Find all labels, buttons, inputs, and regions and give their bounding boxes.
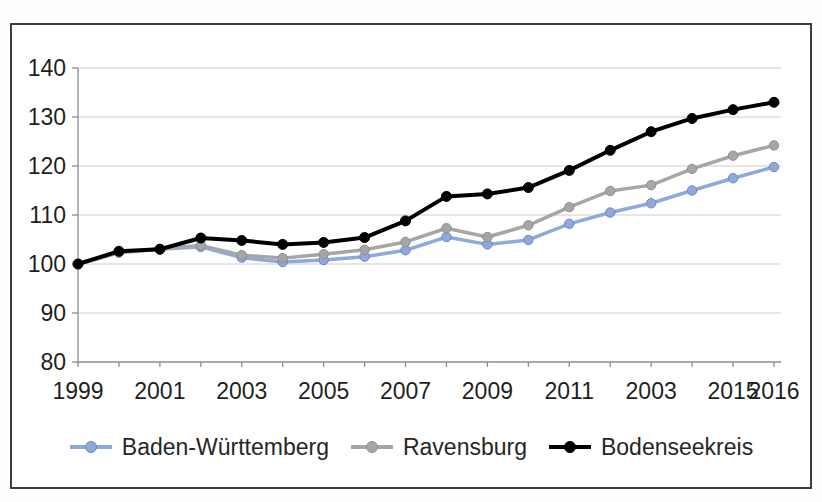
legend-line-marker-icon — [350, 440, 394, 454]
data-point-marker — [442, 232, 451, 241]
x-tick-label: 2007 — [380, 378, 431, 404]
data-point-marker — [319, 250, 328, 259]
x-tick-label: 2011 — [545, 378, 594, 404]
data-point-marker — [646, 127, 656, 137]
data-point-marker — [155, 244, 165, 254]
x-tick-label: 2016 — [748, 378, 799, 404]
y-tick-label: 90 — [40, 300, 66, 326]
data-point-marker — [646, 180, 655, 189]
y-tick-label: 120 — [28, 153, 66, 179]
y-tick-label: 130 — [28, 104, 66, 130]
legend-label-ravensburg: Ravensburg — [403, 436, 527, 459]
data-point-marker — [114, 246, 124, 256]
data-point-marker — [482, 189, 492, 199]
data-point-marker — [687, 164, 696, 173]
legend-item-ravensburg: Ravensburg — [350, 436, 527, 459]
data-point-marker — [278, 239, 288, 249]
x-tick-label: 2005 — [298, 378, 349, 404]
data-point-marker — [360, 245, 369, 254]
data-point-marker — [606, 186, 615, 195]
y-tick-label: 140 — [28, 55, 66, 81]
data-point-marker — [564, 165, 574, 175]
chart-legend: Baden-Württemberg Ravensburg Bodenseekre… — [0, 431, 822, 463]
legend-label-bodenseekreis: Bodenseekreis — [601, 436, 753, 459]
legend-label-baden-wuerttemberg: Baden-Württemberg — [122, 436, 329, 459]
data-point-marker — [401, 237, 410, 246]
data-point-marker — [606, 208, 615, 217]
data-point-marker — [687, 113, 697, 123]
data-point-marker — [523, 183, 533, 193]
data-point-marker — [728, 151, 737, 160]
data-point-marker — [483, 232, 492, 241]
data-point-marker — [401, 216, 411, 226]
data-point-marker — [442, 224, 451, 233]
data-point-marker — [360, 233, 370, 243]
x-tick-label: 2003 — [216, 378, 267, 404]
data-point-marker — [605, 145, 615, 155]
data-point-marker — [319, 237, 329, 247]
legend-item-baden-wuerttemberg: Baden-Württemberg — [69, 436, 329, 459]
chart-screenshot: 1401301201101009080199920012003200520072… — [0, 0, 822, 502]
data-point-marker — [524, 221, 533, 230]
data-point-marker — [73, 259, 83, 269]
legend-item-bodenseekreis: Bodenseekreis — [548, 436, 753, 459]
data-point-marker — [728, 105, 738, 115]
x-tick-label: 1999 — [52, 378, 103, 404]
data-point-marker — [565, 219, 574, 228]
data-point-marker — [769, 141, 778, 150]
data-point-marker — [237, 250, 246, 259]
x-tick-label: 2001 — [134, 378, 185, 404]
data-point-marker — [524, 235, 533, 244]
data-point-marker — [687, 186, 696, 195]
series-line — [78, 102, 774, 264]
data-point-marker — [769, 97, 779, 107]
data-point-marker — [728, 174, 737, 183]
line-chart-plot: 1401301201101009080199920012003200520072… — [0, 0, 822, 502]
series-line — [78, 145, 774, 264]
data-point-marker — [196, 233, 206, 243]
y-tick-label: 110 — [29, 202, 66, 228]
legend-line-marker-icon — [69, 440, 113, 454]
data-point-marker — [278, 253, 287, 262]
x-tick-label: 2009 — [462, 378, 513, 404]
data-point-marker — [565, 202, 574, 211]
y-tick-label: 100 — [28, 251, 66, 277]
y-tick-label: 80 — [40, 349, 66, 375]
legend-line-marker-icon — [548, 440, 592, 454]
data-point-marker — [646, 199, 655, 208]
data-point-marker — [237, 235, 247, 245]
x-tick-label: 2003 — [626, 378, 677, 404]
data-point-marker — [769, 162, 778, 171]
data-point-marker — [441, 191, 451, 201]
